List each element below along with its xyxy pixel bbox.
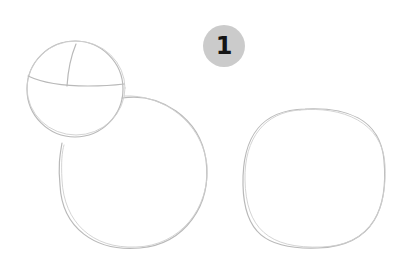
pencil-sketch xyxy=(0,0,416,264)
head-vertical-guide xyxy=(67,44,76,86)
head-circle-sketch xyxy=(27,41,125,137)
right-circle-sketch xyxy=(243,109,385,248)
body-circle-sketch xyxy=(59,96,207,249)
head-horizontal-guide xyxy=(28,76,124,86)
